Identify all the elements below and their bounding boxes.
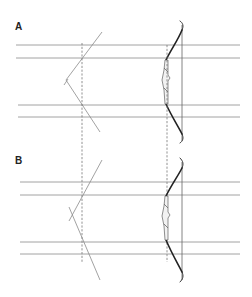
lower-sight-line <box>66 80 100 132</box>
upper-sight-line <box>66 32 102 80</box>
lower-limb <box>166 240 182 272</box>
lower-sight-line <box>69 207 100 280</box>
upper-limb-tip <box>180 158 183 168</box>
bow-diagram: A B <box>0 0 252 297</box>
panel-b: B <box>15 155 240 282</box>
panel-b-label: B <box>15 155 22 166</box>
lower-limb-tip <box>180 134 183 143</box>
bow-riser <box>162 60 170 104</box>
bow-a <box>162 21 183 143</box>
panel-a: A <box>15 21 240 143</box>
lower-limb-tip <box>180 272 183 282</box>
upper-limb-tip <box>180 21 183 30</box>
bow-riser <box>162 196 170 240</box>
upper-sight-line <box>69 160 102 221</box>
lower-limb <box>166 104 182 134</box>
panel-a-label: A <box>15 21 22 32</box>
bow-b <box>162 158 183 282</box>
